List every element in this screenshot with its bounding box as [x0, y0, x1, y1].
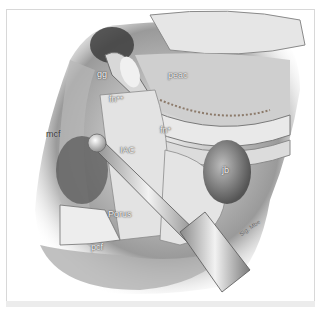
- label-fn-star-star: fn**: [109, 95, 124, 104]
- label-peac: peac: [168, 71, 188, 80]
- label-mcf: mcf: [46, 130, 61, 139]
- label-porus: Porus: [108, 210, 132, 219]
- surgical-illustration: [0, 0, 322, 313]
- label-pcf: pcf: [91, 243, 103, 252]
- label-jb: jb: [222, 166, 229, 175]
- label-fn-star: fn*: [160, 126, 171, 135]
- label-iac: IAC: [120, 146, 135, 155]
- label-gg: gg: [97, 70, 107, 79]
